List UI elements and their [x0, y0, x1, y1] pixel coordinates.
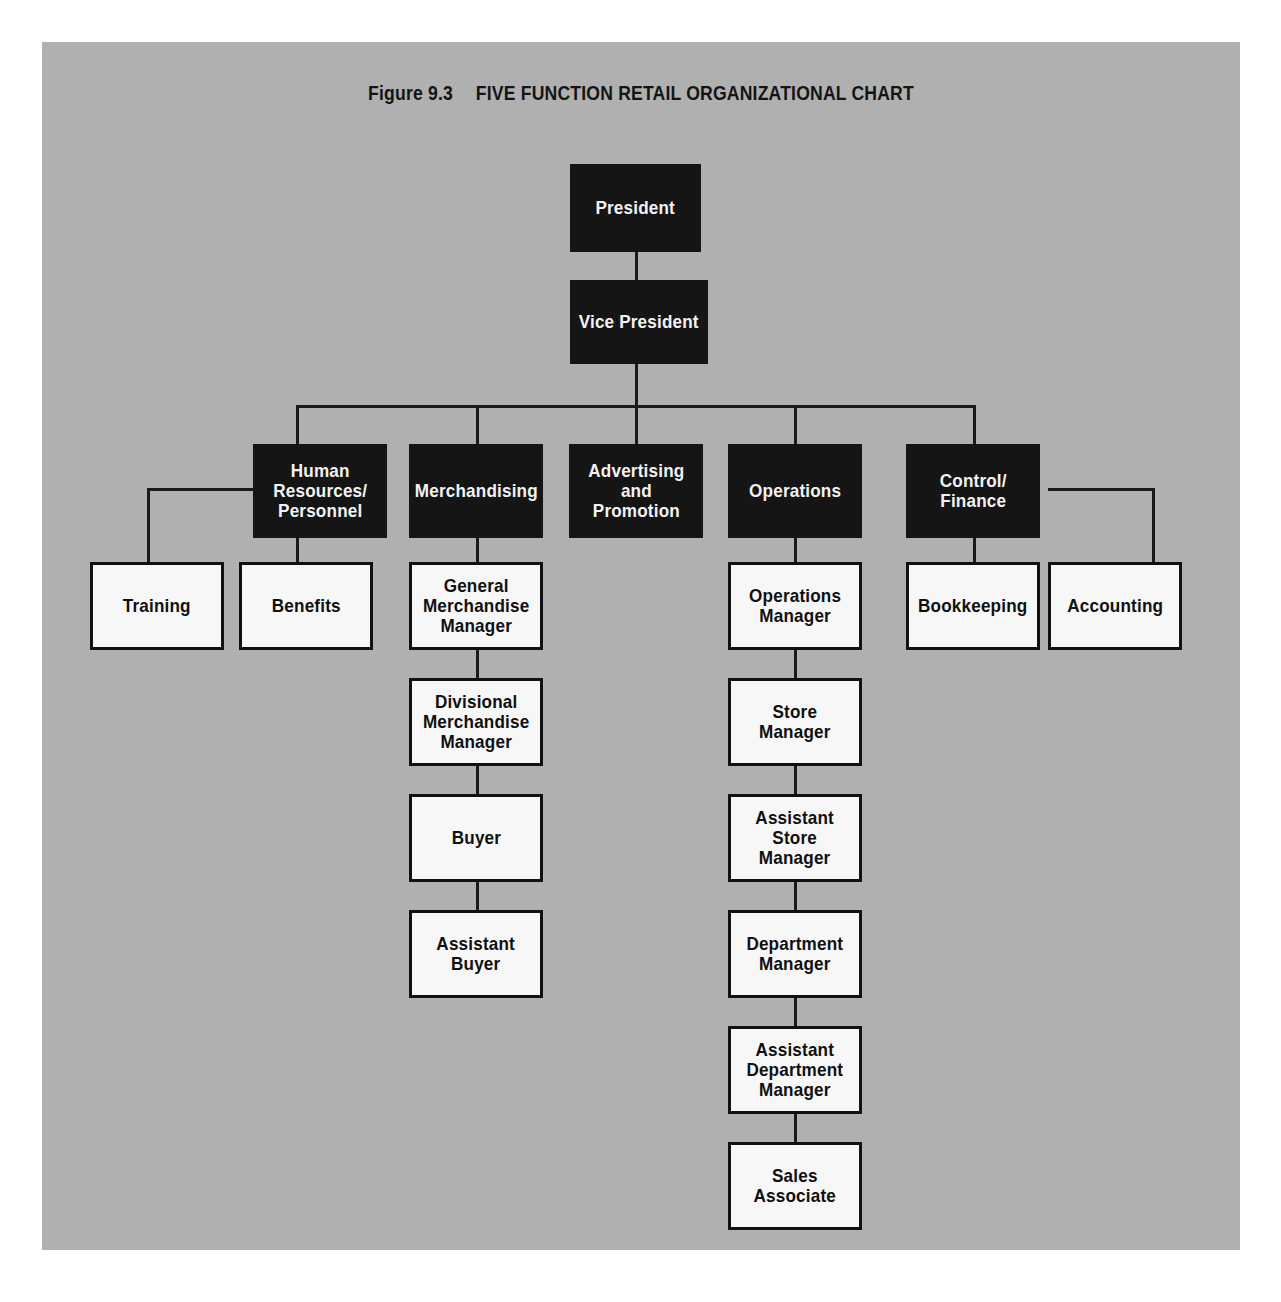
node-general-merchandise-manager[interactable]: General Merchandise Manager	[409, 562, 543, 650]
node-control-finance[interactable]: Control/ Finance	[906, 444, 1040, 538]
edge-bus-to-operations	[794, 405, 797, 444]
edge-operations-to-operations-manager	[794, 536, 797, 562]
figure-title-text: FIVE FUNCTION RETAIL ORGANIZATIONAL CHAR…	[476, 82, 914, 104]
node-store-manager[interactable]: Store Manager	[728, 678, 862, 766]
edge-store-manager-to-asst-store-manager	[794, 766, 797, 794]
node-assistant-department-manager[interactable]: Assistant Department Manager	[728, 1026, 862, 1114]
edge-vicepresident-stem	[635, 362, 638, 407]
edge-hr-to-training-horizontal	[147, 488, 254, 491]
node-merchandising-label: Merchandising	[414, 481, 537, 501]
edge-bus-to-merchandising	[476, 405, 479, 444]
node-buyer-label: Buyer	[451, 828, 500, 848]
node-president[interactable]: President	[570, 164, 701, 252]
edge-control-to-accounting-vertical	[1152, 488, 1155, 562]
node-assistant-buyer-label: Assistant Buyer	[437, 934, 516, 974]
edge-dmm-to-buyer	[476, 766, 479, 794]
node-assistant-buyer[interactable]: Assistant Buyer	[409, 910, 543, 998]
chart-panel: Figure 9.3FIVE FUNCTION RETAIL ORGANIZAT…	[42, 42, 1240, 1250]
node-general-merchandise-manager-label: General Merchandise Manager	[423, 576, 530, 636]
figure-page: Figure 9.3FIVE FUNCTION RETAIL ORGANIZAT…	[0, 0, 1281, 1302]
edge-president-vicepresident	[635, 250, 638, 283]
edge-asst-store-manager-to-dept-manager	[794, 882, 797, 910]
node-operations-manager-label: Operations Manager	[749, 586, 841, 626]
node-human-resources-label: Human Resources/ Personnel	[273, 461, 367, 521]
node-accounting-label: Accounting	[1067, 596, 1163, 616]
node-sales-associate[interactable]: Sales Associate	[728, 1142, 862, 1230]
figure-number: Figure 9.3	[368, 82, 453, 104]
node-control-finance-label: Control/ Finance	[940, 471, 1007, 511]
node-advertising-promotion[interactable]: Advertising and Promotion	[569, 444, 703, 538]
edge-buyer-to-assistant-buyer	[476, 882, 479, 910]
node-assistant-store-manager-label: Assistant Store Manager	[756, 808, 835, 868]
edge-gmm-to-dmm	[476, 650, 479, 678]
edge-asst-dept-manager-to-sales-associate	[794, 1114, 797, 1142]
edge-bus-to-human-resources	[296, 405, 299, 444]
edge-control-to-accounting-horizontal	[1048, 488, 1155, 491]
node-benefits[interactable]: Benefits	[239, 562, 373, 650]
node-divisional-merchandise-manager[interactable]: Divisional Merchandise Manager	[409, 678, 543, 766]
node-assistant-store-manager[interactable]: Assistant Store Manager	[728, 794, 862, 882]
node-sales-associate-label: Sales Associate	[754, 1166, 836, 1206]
edge-bus-to-advertising	[635, 405, 638, 444]
node-assistant-department-manager-label: Assistant Department Manager	[747, 1040, 844, 1100]
node-operations-label: Operations	[749, 481, 841, 501]
node-department-manager-label: Department Manager	[747, 934, 844, 974]
node-divisional-merchandise-manager-label: Divisional Merchandise Manager	[423, 692, 530, 752]
edge-bus-to-control-finance	[973, 405, 976, 444]
node-benefits-label: Benefits	[272, 596, 341, 616]
figure-title: Figure 9.3FIVE FUNCTION RETAIL ORGANIZAT…	[114, 82, 1168, 105]
node-bookkeeping[interactable]: Bookkeeping	[906, 562, 1040, 650]
node-president-label: President	[596, 198, 676, 218]
node-operations[interactable]: Operations	[728, 444, 862, 538]
edge-hr-to-training-vertical	[147, 488, 150, 562]
edge-dept-manager-to-asst-dept-manager	[794, 998, 797, 1026]
edge-hr-to-benefits	[296, 536, 299, 562]
node-bookkeeping-label: Bookkeeping	[918, 596, 1027, 616]
node-advertising-promotion-label: Advertising and Promotion	[588, 461, 684, 521]
node-vice-president-label: Vice President	[579, 312, 699, 332]
node-store-manager-label: Store Manager	[759, 702, 831, 742]
node-vice-president[interactable]: Vice President	[570, 280, 708, 364]
node-department-manager[interactable]: Department Manager	[728, 910, 862, 998]
edge-merchandising-to-gmm	[476, 536, 479, 562]
node-merchandising[interactable]: Merchandising	[409, 444, 543, 538]
edge-operations-manager-to-store-manager	[794, 650, 797, 678]
node-training[interactable]: Training	[90, 562, 224, 650]
node-training-label: Training	[123, 596, 191, 616]
edge-control-to-bookkeeping	[973, 536, 976, 562]
node-human-resources[interactable]: Human Resources/ Personnel	[253, 444, 387, 538]
node-operations-manager[interactable]: Operations Manager	[728, 562, 862, 650]
node-buyer[interactable]: Buyer	[409, 794, 543, 882]
node-accounting[interactable]: Accounting	[1048, 562, 1182, 650]
